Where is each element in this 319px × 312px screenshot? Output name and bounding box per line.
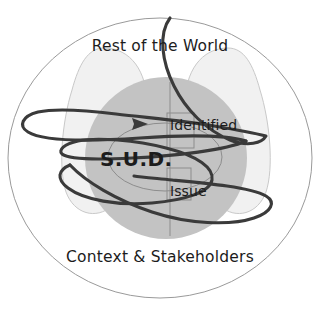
diagram-canvas: Rest of the World Context & Stakeholders… [0, 0, 319, 312]
context-diagram: Rest of the World Context & Stakeholders… [0, 0, 319, 312]
label-issue: Issue [170, 183, 207, 199]
label-identified: Identified [170, 117, 237, 133]
label-rest-of-the-world: Rest of the World [92, 37, 229, 55]
label-sud: S.U.D. [100, 147, 172, 171]
label-context-and-stakeholders: Context & Stakeholders [66, 248, 254, 266]
